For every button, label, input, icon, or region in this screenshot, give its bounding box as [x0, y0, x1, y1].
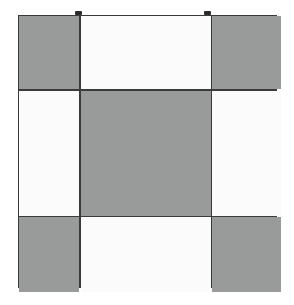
grid-cell-row1-col2 [81, 16, 211, 89]
grid-cell-row1-col3 [212, 16, 281, 89]
grid-cell-row1-col1 [19, 16, 79, 89]
top-tick-marker-left [75, 11, 82, 15]
grid-cell-row2-col2 [81, 91, 211, 216]
grid-cell-row2-col1 [19, 91, 79, 216]
grid-cell-row3-col3 [212, 217, 281, 292]
nine-patch-grid [18, 15, 277, 288]
grid-cell-row3-col2 [81, 217, 211, 292]
top-tick-marker-right [204, 11, 211, 15]
grid-cell-row2-col3 [212, 91, 281, 216]
grid-cell-row3-col1 [19, 217, 79, 292]
figure-canvas [0, 0, 294, 305]
